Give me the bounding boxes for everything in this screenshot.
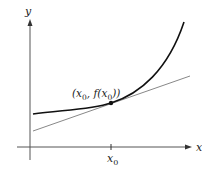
y-axis-label: y bbox=[24, 5, 32, 18]
x-axis-label: x bbox=[196, 141, 202, 154]
tangent-diagram: y x x0 (x0, f(x0)) bbox=[0, 0, 202, 174]
x0-tick-label: x0 bbox=[107, 152, 118, 167]
point-label: (x0, f(x0)) bbox=[72, 87, 120, 102]
y-axis-arrow-icon bbox=[28, 19, 33, 26]
x-axis-arrow-icon bbox=[185, 145, 192, 150]
